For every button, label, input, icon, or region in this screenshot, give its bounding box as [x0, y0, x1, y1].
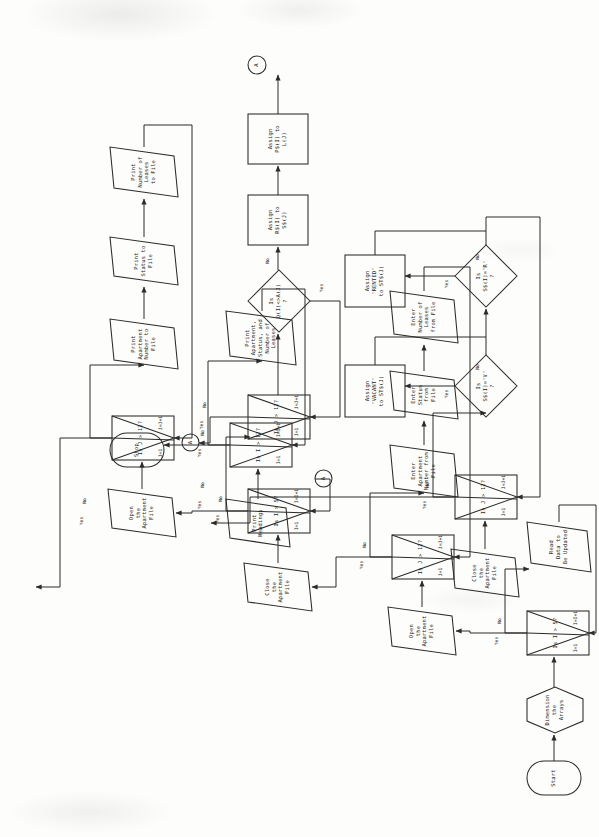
- node-entlease: EnterNumber ofLeasesfrom File: [390, 291, 458, 343]
- svg-text:PrintStatus toFile: PrintStatus toFile: [134, 245, 153, 276]
- edge-label: No: [200, 430, 205, 436]
- svg-text:OpentheApartmentFile: OpentheApartmentFile: [409, 615, 435, 646]
- svg-text:I=I+1: I=I+1: [573, 611, 578, 626]
- connector-line: [370, 493, 424, 557]
- connector-line: [208, 361, 262, 445]
- edge-label: No: [497, 618, 502, 624]
- svg-text:EnterStatusfromFile: EnterStatusfromFile: [411, 385, 437, 406]
- svg-text:AssignP$(I) toL(J): AssignP$(I) toL(J): [268, 125, 287, 153]
- node-start: Start: [527, 761, 581, 795]
- svg-text:DimensiontheArrays: DimensiontheArrays: [545, 694, 565, 725]
- svg-text:OpentheApartmentFile: OpentheApartmentFile: [129, 497, 155, 528]
- edge-label: No: [82, 498, 87, 504]
- node-dim: DimensiontheArrays: [527, 687, 583, 733]
- edge-label: Yes: [197, 501, 202, 510]
- svg-text:ClosetheApartmentFile: ClosetheApartmentFile: [472, 557, 498, 588]
- svg-text:J=J+1: J=J+1: [294, 395, 299, 410]
- edge-label: No: [475, 364, 480, 370]
- svg-text:IsS$(I)="R"?: IsS$(I)="R"?: [476, 260, 495, 291]
- svg-text:J=J+1: J=J+1: [438, 535, 443, 550]
- svg-text:PrintApartmentNumber toFile: PrintApartmentNumber toFile: [131, 328, 157, 359]
- node-asgVAC: Assign"VACANT"to ST$(J): [345, 365, 405, 417]
- node-open1: OpentheApartmentFile: [388, 607, 456, 655]
- edge-label: No: [202, 402, 207, 408]
- edge-label: Yes: [319, 284, 324, 293]
- svg-text:PrintNumber ofLeasesto File: PrintNumber ofLeasesto File: [131, 156, 157, 187]
- svg-text:ReadData toBe Updated: ReadData toBe Updated: [549, 530, 569, 564]
- svg-text:EnterNumber ofLeasesfrom File: EnterNumber ofLeasesfrom File: [411, 301, 437, 332]
- edge-label: Yes: [444, 280, 449, 289]
- flowchart-connectors: [36, 75, 596, 761]
- svg-text:Stop: Stop: [133, 443, 140, 457]
- svg-text:J=1: J=1: [501, 508, 506, 517]
- node-prtrep: PrintApartment,Status, andNumber ofLease…: [226, 311, 296, 365]
- connector-line: [375, 337, 486, 365]
- svg-text:J=1: J=1: [294, 428, 299, 437]
- edge-label: Yes: [494, 637, 499, 646]
- svg-text:I=1: I=1: [294, 522, 299, 531]
- connector-line: [310, 479, 330, 511]
- connector-line: [433, 413, 486, 497]
- connector-line: [375, 231, 486, 255]
- edge-label: No: [425, 482, 430, 488]
- svg-text:Is I > 12?: Is I > 12?: [255, 428, 261, 462]
- node-loopG: Is I > 12?I=1I=I+1: [230, 423, 292, 467]
- edge-label: Yes: [197, 449, 202, 458]
- node-loopA: Is I > 5?I=1I=I+1: [527, 611, 589, 655]
- edge-label: No: [475, 254, 480, 260]
- edge-label: Yes: [444, 390, 449, 399]
- edge-label: Yes: [359, 561, 364, 570]
- svg-text:J=J+1: J=J+1: [501, 475, 506, 490]
- node-connA3: A: [248, 56, 266, 74]
- svg-text:Start: Start: [550, 769, 556, 786]
- svg-text:I=I+1: I=I+1: [294, 489, 299, 504]
- edge-label: Yes: [215, 515, 220, 524]
- svg-text:A: A: [187, 440, 193, 444]
- svg-text:Is J > 12?: Is J > 12?: [417, 540, 423, 574]
- node-loopE: Is J > 12?J=1J=J+1: [112, 416, 174, 460]
- svg-text:Is I > 5?: Is I > 5?: [273, 495, 279, 526]
- svg-text:Is J > 12?: Is J > 12?: [480, 480, 486, 514]
- edge-label: No: [200, 482, 205, 488]
- connector-line: [90, 365, 144, 438]
- svg-text:A: A: [320, 476, 326, 480]
- node-prtstat: PrintStatus toFile: [110, 237, 178, 285]
- node-prtlease: PrintNumber ofLeasesto File: [110, 147, 178, 197]
- svg-text:I=1: I=1: [276, 456, 281, 465]
- node-close1: ClosetheApartmentFile: [244, 563, 312, 611]
- flowchart-svg: StartDimensiontheArraysIs I > 5?I=1I=I+1…: [0, 0, 599, 837]
- connector-line: [36, 438, 112, 587]
- node-loopB: Is J > 12?J=1J=J+1: [392, 535, 454, 579]
- svg-text:ClosetheApartmentFile: ClosetheApartmentFile: [265, 571, 291, 602]
- connector-line: [486, 217, 540, 497]
- svg-text:J=1: J=1: [438, 568, 443, 577]
- connector-line: [310, 301, 340, 417]
- node-decR: IsS$(I)="R"?: [455, 245, 517, 307]
- svg-text:Is I > 5?: Is I > 5?: [552, 617, 558, 648]
- svg-text:Assign"RENTED"to ST$(J): Assign"RENTED"to ST$(J): [365, 265, 384, 296]
- edge-label: No: [218, 496, 223, 502]
- svg-text:Assign"VACANT"to ST$(J): Assign"VACANT"to ST$(J): [365, 375, 384, 406]
- node-open2: OpentheApartmentFile: [108, 489, 176, 537]
- edge-label: Yes: [199, 421, 204, 430]
- edge-label: Yes: [79, 517, 84, 526]
- connector-line: [312, 557, 392, 587]
- node-assignRS: AssignR$(I) toS$(J): [248, 195, 308, 245]
- node-assignPS: AssignP$(I) toL(J): [248, 114, 308, 164]
- svg-text:A: A: [253, 63, 259, 67]
- node-entapt: EnterApartmentNumber fromFile: [390, 445, 458, 497]
- node-asgRENT: Assign"RENTED"to ST$(J): [345, 255, 405, 307]
- edge-label: Yes: [422, 501, 427, 510]
- node-close2: ClosetheApartmentFile: [451, 549, 519, 597]
- node-prtapt: PrintApartmentNumber toFile: [110, 319, 178, 369]
- node-readdata: ReadData toBe Updated: [527, 522, 591, 572]
- rotated-flowchart-canvas: StartDimensiontheArraysIs I > 5?I=1I=I+1…: [0, 0, 599, 837]
- svg-text:I=I+1: I=I+1: [276, 423, 281, 438]
- svg-text:J=J+1: J=J+1: [158, 416, 163, 431]
- node-loopF: Is J > 12?J=1J=J+1: [455, 475, 517, 519]
- node-decV: IsS$(I)="V"?: [455, 355, 517, 417]
- edge-label: No: [362, 542, 367, 548]
- svg-text:I=1: I=1: [573, 644, 578, 653]
- edge-label: No: [265, 258, 270, 264]
- flowchart-nodes: StartDimensiontheArraysIs I > 5?I=1I=I+1…: [108, 56, 591, 795]
